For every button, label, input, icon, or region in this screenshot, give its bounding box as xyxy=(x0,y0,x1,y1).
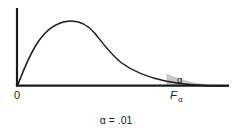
f-distribution-figure: 0 α F α α = .01 xyxy=(0,0,233,131)
critical-value-symbol: F xyxy=(170,89,178,101)
caption-label: α = .01 xyxy=(100,114,133,126)
tail-shaded-region xyxy=(167,74,228,86)
critical-value-label: F α xyxy=(170,89,183,104)
density-curve xyxy=(18,21,229,86)
critical-value-subscript: α xyxy=(178,95,183,104)
origin-label: 0 xyxy=(14,89,20,101)
tail-area-alpha-label: α xyxy=(177,74,183,85)
distribution-plot: 0 α F α α = .01 xyxy=(0,0,233,131)
